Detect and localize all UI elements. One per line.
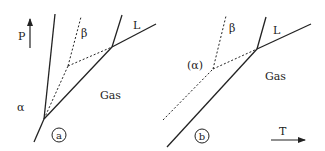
panel-a: β L Gas α a	[17, 14, 156, 142]
metastable-beta-upper	[68, 17, 81, 66]
label-liquid-a: L	[133, 19, 141, 32]
label-gas-b: Gas	[265, 70, 286, 83]
metastable-beta-gas	[68, 47, 112, 66]
phase-diagram: P β L Gas α a β L Gas (α) b T	[0, 0, 325, 151]
metastable-beta-gas-b	[213, 49, 257, 69]
panel-tag-a: a	[56, 130, 62, 141]
temperature-label: T	[279, 125, 287, 138]
label-liquid-b: L	[273, 24, 281, 37]
panel-tag-b: b	[199, 131, 205, 142]
label-alpha-a: α	[17, 101, 25, 114]
melting-boundary-b	[257, 17, 266, 49]
vaporization-boundary-b	[257, 24, 311, 49]
sublimation-boundary-b	[167, 49, 257, 147]
solid-alpha-gas-boundary	[34, 119, 44, 142]
pressure-label: P	[18, 30, 26, 43]
label-gas-a: Gas	[100, 89, 121, 102]
label-beta-a: β	[81, 27, 87, 40]
metastable-alpha-line-b	[163, 69, 213, 120]
metastable-alpha-beta	[44, 66, 68, 119]
label-alpha-b: (α)	[187, 59, 203, 72]
pressure-axis: P	[18, 19, 30, 48]
panel-b: β L Gas (α) b	[163, 16, 311, 147]
metastable-beta-upper-b	[213, 16, 226, 69]
temperature-axis: T	[271, 125, 305, 140]
solid-alpha-liquid-boundary	[44, 14, 55, 119]
sublimation-boundary	[44, 47, 112, 119]
label-beta-b: β	[229, 22, 235, 35]
